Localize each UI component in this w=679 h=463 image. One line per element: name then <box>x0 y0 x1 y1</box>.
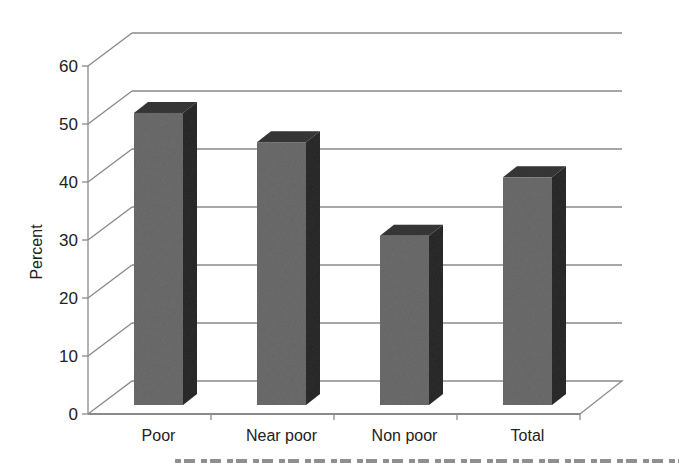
y-tick-label: 20 <box>59 289 78 308</box>
bar-near-poor <box>257 131 320 405</box>
y-tick-label: 0 <box>69 405 78 424</box>
x-category-label: Poor <box>142 427 176 444</box>
x-category-label: Non poor <box>372 427 438 444</box>
y-tick-label: 40 <box>59 173 78 192</box>
bar-poor <box>134 102 197 405</box>
x-category-label: Near poor <box>246 427 318 444</box>
x-category-label: Total <box>511 427 545 444</box>
y-tick-label: 50 <box>59 115 78 134</box>
bar-chart: 0102030405060 PoorNear poorNon poorTotal… <box>0 0 679 463</box>
bar-non-poor <box>380 225 443 405</box>
x-category-labels: PoorNear poorNon poorTotal <box>142 427 545 444</box>
y-axis <box>82 66 88 414</box>
cropped-caption-text <box>0 452 679 463</box>
y-axis-title: Percent <box>28 224 45 280</box>
y-tick-label: 30 <box>59 231 78 250</box>
y-tick-labels: 0102030405060 <box>59 57 78 424</box>
bar-total <box>503 166 566 405</box>
y-tick-label: 60 <box>59 57 78 76</box>
bars <box>134 102 566 405</box>
y-tick-label: 10 <box>59 347 78 366</box>
